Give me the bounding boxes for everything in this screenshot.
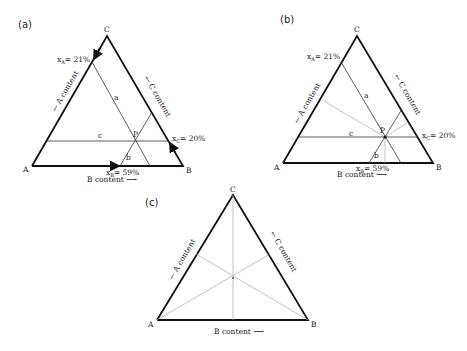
annotation-xC-a: xC= 20%: [172, 134, 205, 144]
annotation-xA-b: xA= 21%: [307, 52, 340, 62]
svg-text:xA= 21%: xA= 21%: [57, 55, 90, 65]
point-p-marker: [383, 135, 386, 138]
axis-label-b-content-c: B content ⟶: [214, 327, 264, 336]
panel-a-label: (a): [18, 19, 32, 30]
perp-to-bc: [385, 123, 407, 137]
svg-text:← C content: ← C content: [268, 230, 299, 274]
centroid-marker: [232, 277, 234, 279]
axis-label-c-content-c: ← C content: [268, 230, 299, 274]
svg-text:xC= 20%: xC= 20%: [172, 134, 205, 144]
arrow-xC-icon: [170, 143, 175, 152]
line-label-b-b: b: [374, 151, 379, 160]
panel-c: (c) C A B ← A content ← C content B cont…: [145, 185, 317, 336]
panel-b-label: (b): [280, 14, 294, 25]
vertex-c-a: C: [104, 25, 110, 34]
axis-label-b-content-b: B content ⟶: [337, 170, 387, 179]
annotation-xC-b: xC= 20%: [422, 131, 455, 141]
vertex-a-b: A: [273, 163, 280, 172]
point-p-a: P: [133, 130, 138, 139]
axis-label-a-content-c: ← A content: [167, 237, 197, 281]
svg-text:xA= 21%: xA= 21%: [307, 52, 340, 62]
vertex-a-a: A: [22, 165, 29, 174]
axis-label-c-content-b: ← C content: [392, 73, 423, 117]
line-label-c: c: [98, 131, 102, 140]
line-label-a: a: [114, 93, 119, 102]
line-label-b: b: [126, 153, 131, 162]
point-p-b: P: [380, 126, 385, 135]
panel-a: (a) C A B a c b P xA= 21% xB= 59% xC= 20…: [18, 19, 205, 184]
axis-label-c-content-a: ← C content: [142, 75, 173, 119]
panel-b: (b) C A B a c b P xA= 21% xB= 59% xC= 20…: [273, 14, 455, 179]
line-a: [92, 62, 150, 166]
vertex-b-a: B: [186, 166, 192, 175]
annotation-xA-a: xA= 21%: [57, 55, 90, 65]
line-label-a-b: a: [364, 91, 369, 100]
vertex-c-c: C: [230, 185, 236, 194]
svg-text:← C content: ← C content: [392, 73, 423, 117]
line-label-c-b: c: [349, 129, 353, 138]
vertex-b-c: B: [311, 320, 317, 329]
vertex-b-b: B: [436, 163, 442, 172]
panel-c-label: (c): [145, 197, 158, 208]
vertex-c-b: C: [354, 25, 360, 34]
svg-text:← C content: ← C content: [142, 75, 173, 119]
perp-to-ac: [322, 100, 385, 137]
arrow-xA-icon: [94, 48, 100, 59]
vertex-a-c: A: [147, 320, 154, 329]
axis-label-b-content-a: B content ⟶: [87, 175, 137, 184]
line-a-b: [341, 62, 401, 163]
svg-text:xC= 20%: xC= 20%: [422, 131, 455, 141]
svg-text:← A content: ← A content: [167, 237, 197, 281]
ternary-diagram-figure: (a) C A B a c b P xA= 21% xB= 59% xC= 20…: [0, 0, 467, 351]
